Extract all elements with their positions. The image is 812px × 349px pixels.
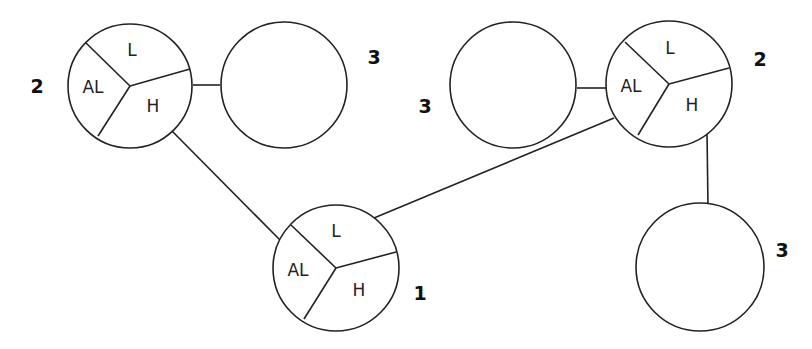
node-n4: L AL H — [606, 21, 732, 147]
tree-diagram: L AL H 2 3 3 L AL H 2 L AL H 1 3 — [0, 0, 812, 349]
order-label-n5: 1 — [413, 282, 426, 304]
segment-right-label: H — [686, 95, 699, 115]
order-label-n3: 3 — [418, 95, 431, 117]
edge-n1-n5 — [172, 131, 280, 240]
segment-top-label: L — [331, 221, 341, 241]
node-n1: L AL H — [68, 24, 192, 148]
segment-top-label: L — [127, 40, 137, 60]
segment-right-label: H — [147, 96, 160, 116]
order-label-n4: 2 — [753, 48, 766, 70]
segment-left-label: AL — [620, 76, 642, 96]
node-n3 — [450, 22, 576, 148]
segment-left-label: AL — [287, 260, 309, 280]
node-n6 — [636, 203, 764, 331]
segment-right-label: H — [353, 280, 366, 300]
order-label-n6: 3 — [775, 239, 788, 261]
segment-left-label: AL — [82, 77, 104, 97]
node-n2 — [221, 22, 347, 148]
segment-top-label: L — [665, 38, 675, 58]
order-label-n2: 3 — [367, 46, 380, 68]
edge-n4-n6 — [707, 132, 708, 207]
node-n5: L AL H — [273, 205, 399, 331]
order-label-n1: 2 — [30, 75, 43, 97]
